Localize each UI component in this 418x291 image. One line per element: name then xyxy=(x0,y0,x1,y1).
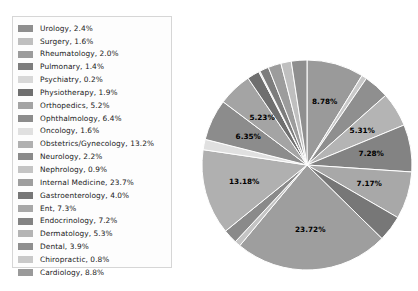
legend-item-label: Chiropractic, 0.8% xyxy=(40,256,109,263)
pie-slice-label: 13.18% xyxy=(229,177,260,186)
legend-item: Endocrinology, 7.2% xyxy=(18,215,167,228)
legend-item: Neurology, 2.2% xyxy=(18,150,167,163)
legend-item-label: Internal Medicine, 23.7% xyxy=(40,179,134,186)
legend-swatch xyxy=(18,141,33,148)
pie-slice-label: 7.28% xyxy=(359,149,385,158)
legend-item: Dental, 3.9% xyxy=(18,240,167,253)
pie-slice-label: 23.72% xyxy=(295,225,326,234)
legend-item-label: Orthopedics, 5.2% xyxy=(40,102,110,109)
legend-item-label: Surgery, 1.6% xyxy=(40,38,93,45)
legend-item: Dermatology, 5.3% xyxy=(18,228,167,241)
legend-item-label: Psychiatry, 0.2% xyxy=(40,76,103,83)
legend-item: Physiotherapy, 1.9% xyxy=(18,86,167,99)
legend-item-label: Rheumatology, 2.0% xyxy=(40,50,119,57)
legend-item: Nephrology, 0.9% xyxy=(18,163,167,176)
pie-slice-label: 8.78% xyxy=(312,97,338,106)
legend-swatch xyxy=(18,63,33,70)
legend-item-label: Dermatology, 5.3% xyxy=(40,230,113,237)
legend-swatch xyxy=(18,205,33,212)
legend-item: Urology, 2.4% xyxy=(18,22,167,35)
legend-swatch xyxy=(18,102,33,109)
legend-item-label: Pulmonary, 1.4% xyxy=(40,63,104,70)
legend-swatch xyxy=(18,25,33,32)
legend-swatch xyxy=(18,256,33,263)
chart-legend: Urology, 2.4%Surgery, 1.6%Rheumatology, … xyxy=(12,16,172,268)
pie-chart: 8.78%5.31%7.28%7.17%23.72%13.18%6.35%5.2… xyxy=(201,59,413,271)
legend-item-label: Nephrology, 0.9% xyxy=(40,166,107,173)
pie-svg: 8.78%5.31%7.28%7.17%23.72%13.18%6.35%5.2… xyxy=(201,59,413,271)
legend-item: Pulmonary, 1.4% xyxy=(18,61,167,74)
legend-item: Ophthalmology, 6.4% xyxy=(18,112,167,125)
legend-swatch xyxy=(18,192,33,199)
legend-item-label: Gastroenterology, 4.0% xyxy=(40,192,129,199)
legend-swatch xyxy=(18,243,33,250)
legend-item-label: Obstetrics/Gynecology, 13.2% xyxy=(40,140,154,147)
pie-slice-label: 5.23% xyxy=(249,113,275,122)
legend-item-label: Ent, 7.3% xyxy=(40,205,76,212)
legend-item-label: Oncology, 1.6% xyxy=(40,127,99,134)
legend-swatch xyxy=(18,269,33,276)
legend-item: Ent, 7.3% xyxy=(18,202,167,215)
legend-swatch xyxy=(18,51,33,58)
legend-item: Cardiology, 8.8% xyxy=(18,266,167,279)
legend-item-label: Ophthalmology, 6.4% xyxy=(40,115,122,122)
legend-swatch xyxy=(18,128,33,135)
pie-slice-label: 6.35% xyxy=(236,132,262,141)
pie-slice-label: 7.17% xyxy=(357,179,383,188)
legend-swatch xyxy=(18,218,33,225)
legend-swatch xyxy=(18,89,33,96)
legend-swatch xyxy=(18,76,33,83)
pie-chart-figure: Urology, 2.4%Surgery, 1.6%Rheumatology, … xyxy=(0,0,418,291)
legend-item-label: Neurology, 2.2% xyxy=(40,153,102,160)
legend-swatch xyxy=(18,230,33,237)
legend-item: Gastroenterology, 4.0% xyxy=(18,189,167,202)
legend-swatch xyxy=(18,166,33,173)
legend-swatch xyxy=(18,179,33,186)
legend-swatch xyxy=(18,38,33,45)
legend-item: Internal Medicine, 23.7% xyxy=(18,176,167,189)
legend-item-label: Dental, 3.9% xyxy=(40,243,89,250)
legend-item-label: Physiotherapy, 1.9% xyxy=(40,89,118,96)
legend-item-label: Endocrinology, 7.2% xyxy=(40,217,117,224)
legend-item: Chiropractic, 0.8% xyxy=(18,253,167,266)
legend-swatch xyxy=(18,153,33,160)
legend-item: Obstetrics/Gynecology, 13.2% xyxy=(18,138,167,151)
legend-item: Orthopedics, 5.2% xyxy=(18,99,167,112)
legend-swatch xyxy=(18,115,33,122)
legend-item-label: Urology, 2.4% xyxy=(40,25,93,32)
legend-item: Oncology, 1.6% xyxy=(18,125,167,138)
legend-item-label: Cardiology, 8.8% xyxy=(40,269,104,276)
legend-item: Surgery, 1.6% xyxy=(18,35,167,48)
legend-item: Rheumatology, 2.0% xyxy=(18,48,167,61)
legend-item: Psychiatry, 0.2% xyxy=(18,73,167,86)
pie-slice-label: 5.31% xyxy=(350,126,376,135)
